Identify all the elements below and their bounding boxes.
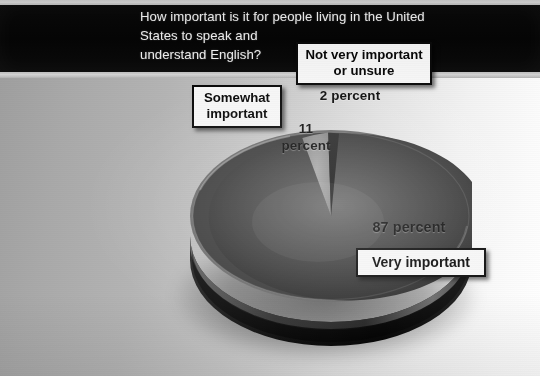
label-2-percent: 2 percent <box>313 87 387 104</box>
label-11-percent: 11 percent <box>277 120 335 154</box>
label-87-percent: 87 percent <box>354 219 464 236</box>
callout-not-very-line-1: Not very important <box>305 47 423 63</box>
callout-somewhat-line-1: Somewhat <box>201 90 273 106</box>
question-line-1: How important is it for people living in… <box>140 7 480 26</box>
callout-somewhat-line-2: important <box>201 106 273 122</box>
label-11-percent-line-2: percent <box>277 137 335 154</box>
label-11-percent-line-1: 11 <box>277 120 335 137</box>
header-bottom-strip <box>0 72 540 78</box>
screenshot-stage: How important is it for people living in… <box>0 0 540 376</box>
callout-not-very-important: Not very important or unsure <box>296 42 432 85</box>
callout-very-important: Very important <box>356 248 486 277</box>
callout-somewhat-important: Somewhat important <box>192 85 282 128</box>
callout-not-very-line-2: or unsure <box>305 63 423 79</box>
